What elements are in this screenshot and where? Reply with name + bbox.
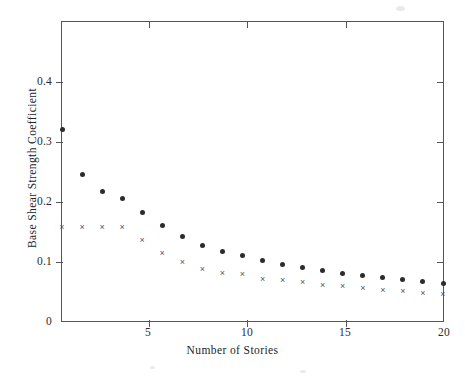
data-point-circle (380, 275, 385, 280)
x-tick-label-10: 10 (227, 326, 267, 338)
data-point-cross (419, 290, 426, 297)
scan-speck (300, 370, 306, 373)
x-tick-mark-top-15 (346, 22, 347, 28)
data-point-cross (179, 259, 186, 266)
data-point-circle (300, 265, 305, 270)
data-point-circle (140, 210, 145, 215)
scan-speck (396, 6, 405, 11)
x-tick-mark-top-10 (247, 22, 248, 28)
data-point-circle (280, 262, 285, 267)
x-tick-label-20: 20 (424, 326, 464, 338)
x-tick-mark-top-5 (149, 22, 150, 28)
x-tick-label-15: 15 (325, 326, 365, 338)
y-tick-label-0.3: 0.3 (12, 135, 52, 147)
y-tick-label-0.2: 0.2 (12, 195, 52, 207)
data-point-circle (240, 253, 245, 258)
data-point-circle (441, 281, 446, 286)
y-tick-mark-right-0.3 (437, 142, 443, 143)
data-point-cross (279, 277, 286, 284)
data-point-cross (99, 224, 106, 231)
scan-speck (150, 366, 155, 369)
figure-canvas: Base Shear Strength Coefficient 0 0.1 0.… (0, 0, 465, 376)
data-point-cross (319, 282, 326, 289)
x-tick-label-5: 5 (128, 326, 168, 338)
data-point-cross (359, 285, 366, 292)
data-point-cross (79, 224, 86, 231)
x-tick-mark-5 (149, 320, 150, 327)
data-point-circle (120, 196, 125, 201)
x-axis-title: Number of Stories (0, 344, 465, 356)
data-point-circle (400, 277, 405, 282)
data-point-cross (119, 224, 126, 231)
y-tick-mark-0.1 (56, 262, 63, 263)
plot-area (61, 21, 444, 322)
x-tick-mark-10 (247, 320, 248, 327)
data-point-circle (60, 127, 65, 132)
data-point-cross (199, 266, 206, 273)
data-point-circle (360, 273, 365, 278)
y-tick-mark-0.4 (56, 82, 63, 83)
y-tick-mark-0.3 (56, 142, 63, 143)
data-point-circle (180, 234, 185, 239)
y-tick-mark-right-0.2 (437, 202, 443, 203)
data-point-circle (100, 189, 105, 194)
data-point-cross (399, 288, 406, 295)
y-tick-label-0: 0 (12, 315, 52, 327)
data-point-circle (220, 249, 225, 254)
data-point-circle (340, 271, 345, 276)
data-point-cross (440, 291, 447, 298)
data-point-circle (320, 268, 325, 273)
y-tick-mark-right-0.1 (437, 262, 443, 263)
data-point-cross (379, 287, 386, 294)
data-point-cross (239, 271, 246, 278)
data-point-circle (160, 223, 165, 228)
data-point-circle (200, 243, 205, 248)
data-point-cross (219, 270, 226, 277)
y-tick-label-0.1: 0.1 (12, 255, 52, 267)
data-point-cross (339, 283, 346, 290)
data-point-cross (259, 276, 266, 283)
y-tick-mark-0.2 (56, 202, 63, 203)
data-point-cross (139, 237, 146, 244)
data-point-cross (159, 250, 166, 257)
x-tick-mark-15 (346, 320, 347, 327)
y-tick-label-0.4: 0.4 (12, 75, 52, 87)
y-tick-mark-right-0.4 (437, 82, 443, 83)
data-point-circle (260, 258, 265, 263)
y-axis-title: Base Shear Strength Coefficient (26, 68, 38, 268)
data-point-cross (299, 279, 306, 286)
data-point-cross (59, 224, 66, 231)
data-point-circle (80, 172, 85, 177)
data-point-circle (420, 279, 425, 284)
